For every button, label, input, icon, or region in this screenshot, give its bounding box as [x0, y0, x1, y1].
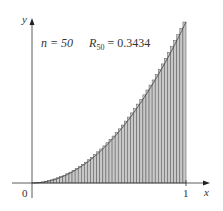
riemann-bar [149, 85, 152, 183]
riemann-bar [168, 53, 171, 183]
x-tick-label-one: 1 [183, 188, 189, 199]
riemann-bar [174, 41, 177, 183]
riemann-bar [177, 35, 180, 183]
riemann-bar [78, 167, 81, 183]
riemann-bar [97, 152, 100, 183]
riemann-bar [106, 143, 109, 183]
x-axis-label: x [204, 187, 209, 198]
riemann-bar [112, 136, 115, 183]
r-value: = 0.3434 [104, 36, 150, 50]
riemann-bar [158, 69, 161, 183]
riemann-bar [91, 157, 94, 183]
riemann-bar [94, 155, 97, 183]
riemann-bar [183, 22, 186, 183]
riemann-bar [81, 164, 84, 183]
x-axis-arrow-icon [203, 181, 210, 186]
riemann-bar [152, 80, 155, 183]
riemann-annotation: n = 50 R50 = 0.3434 [41, 37, 150, 52]
riemann-bar [143, 95, 146, 183]
riemann-bar [134, 109, 137, 183]
y-axis-label: y [22, 14, 27, 25]
riemann-bar [87, 160, 90, 183]
riemann-bar [137, 104, 140, 183]
riemann-bar [100, 149, 103, 183]
riemann-bar [161, 64, 164, 183]
riemann-bar [124, 121, 127, 183]
riemann-bar [121, 125, 124, 183]
riemann-bar [84, 162, 87, 183]
riemann-bar [109, 139, 112, 183]
riemann-bar [75, 169, 78, 183]
riemann-bar [146, 90, 149, 183]
riemann-bar [103, 146, 106, 183]
riemann-bar [171, 47, 174, 183]
y-axis-arrow-icon [30, 18, 35, 25]
riemann-bar [127, 117, 130, 183]
origin-label: 0 [22, 188, 28, 199]
riemann-bar [164, 58, 167, 183]
riemann-bar [180, 28, 183, 183]
n-text: n = 50 [41, 36, 73, 50]
riemann-bar [155, 75, 158, 183]
riemann-bar [115, 133, 118, 183]
riemann-sum-chart [0, 0, 223, 211]
riemann-bar [131, 113, 134, 183]
riemann-bar [118, 129, 121, 183]
riemann-bar [140, 100, 143, 183]
